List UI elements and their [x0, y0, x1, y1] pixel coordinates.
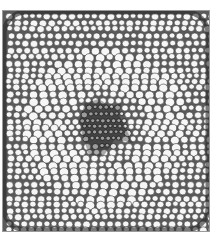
micrograph-frame — [2, 10, 210, 232]
root-cross-section-image — [3, 11, 209, 231]
